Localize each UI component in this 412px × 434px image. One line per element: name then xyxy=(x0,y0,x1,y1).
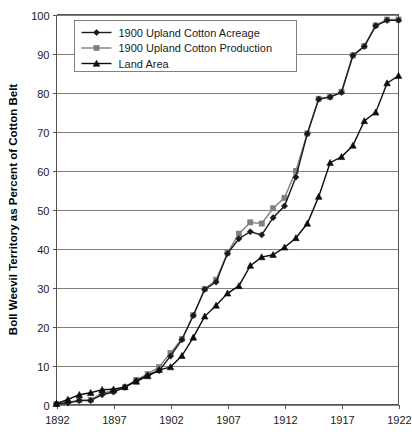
y-tick-label-0: 0 xyxy=(43,400,49,412)
data-point-2-28 xyxy=(372,109,379,115)
x-tick-label-1917: 1917 xyxy=(330,414,354,426)
y-tick-label-70: 70 xyxy=(37,127,49,139)
data-point-2-29 xyxy=(384,80,391,86)
data-point-2-23 xyxy=(315,193,322,199)
x-tick-label-1907: 1907 xyxy=(216,414,240,426)
legend-label-0: 1900 Upland Cotton Acreage xyxy=(119,27,260,39)
y-tick-label-10: 10 xyxy=(37,361,49,373)
chart-container: 0102030405060708090100189218971902190719… xyxy=(0,0,412,434)
series-line-0 xyxy=(57,20,399,403)
data-point-2-30 xyxy=(395,72,402,78)
y-tick-label-80: 80 xyxy=(37,88,49,100)
y-tick-label-20: 20 xyxy=(37,322,49,334)
data-point-1-18 xyxy=(259,221,264,226)
x-tick-label-1897: 1897 xyxy=(102,414,126,426)
x-tick-label-1902: 1902 xyxy=(159,414,183,426)
data-point-2-24 xyxy=(327,159,334,165)
data-point-2-15 xyxy=(224,290,231,296)
data-point-2-12 xyxy=(190,334,197,340)
series-0 xyxy=(53,17,401,407)
chart-legend: 1900 Upland Cotton Acreage1900 Upland Co… xyxy=(75,21,297,72)
legend-marker-1 xyxy=(94,45,99,50)
data-point-0-17 xyxy=(247,229,253,235)
data-point-2-19 xyxy=(270,251,277,257)
x-tick-label-1912: 1912 xyxy=(273,414,297,426)
y-tick-label-40: 40 xyxy=(37,244,49,256)
y-tick-label-50: 50 xyxy=(37,205,49,217)
x-axis-group: 1892189719021907191219171922 xyxy=(45,405,411,426)
data-point-2-26 xyxy=(350,142,357,148)
data-point-2-16 xyxy=(236,283,243,289)
series-1 xyxy=(54,17,401,407)
y-axis-title: Boll Weevil Territory as Percent of Cott… xyxy=(7,84,19,336)
data-point-1-17 xyxy=(248,220,253,225)
y-tick-label-90: 90 xyxy=(37,49,49,61)
legend-label-1: 1900 Upland Cotton Production xyxy=(119,42,273,54)
x-tick-label-1922: 1922 xyxy=(387,414,411,426)
y-tick-label-60: 60 xyxy=(37,166,49,178)
line-chart: 0102030405060708090100189218971902190719… xyxy=(0,0,412,434)
x-tick-label-1892: 1892 xyxy=(45,414,69,426)
series-line-1 xyxy=(57,20,399,405)
y-tick-label-100: 100 xyxy=(31,10,49,22)
legend-label-2: Land Area xyxy=(119,58,170,70)
series-line-2 xyxy=(57,76,399,404)
series-2 xyxy=(53,72,402,406)
y-tick-label-30: 30 xyxy=(37,283,49,295)
data-point-2-22 xyxy=(304,220,311,226)
data-point-1-19 xyxy=(271,206,276,211)
